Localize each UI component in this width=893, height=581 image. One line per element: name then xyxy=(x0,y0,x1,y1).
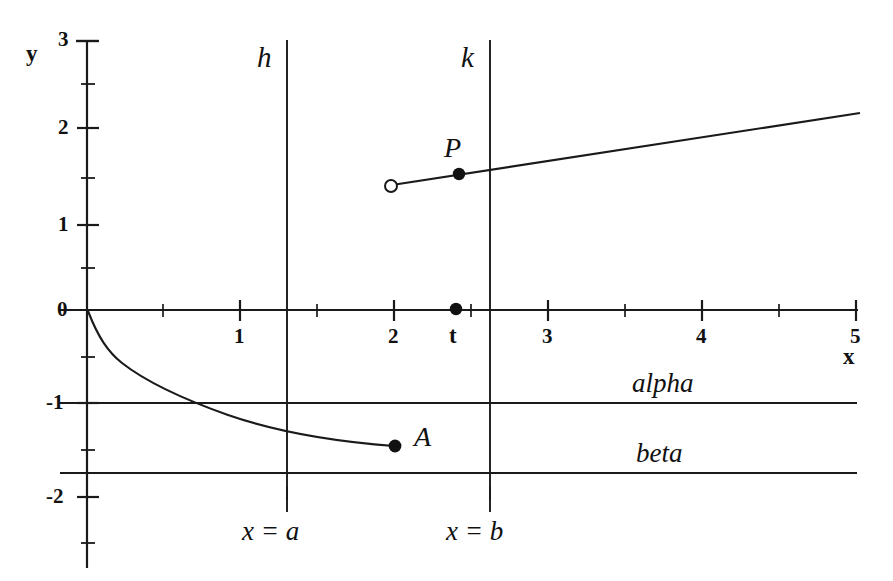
point-t-label: t xyxy=(449,324,457,347)
y-axis-label: y xyxy=(26,42,38,65)
x-tick-label-1: 1 xyxy=(234,326,245,347)
x-equals-a-label: x = a xyxy=(242,518,299,545)
y-tick-label-0: 0 xyxy=(57,299,68,320)
open-circle-endpoint-marker xyxy=(385,180,397,192)
point-A-label: A xyxy=(414,423,431,451)
x-tick-label-4: 4 xyxy=(696,326,707,347)
point-A-marker xyxy=(389,440,402,453)
y-tick-label-2: 2 xyxy=(58,117,69,138)
vertical-line-h-label: h xyxy=(257,43,272,72)
point-P-label: P xyxy=(444,134,461,162)
alpha-line-label: alpha xyxy=(632,370,694,397)
y-tick-label-neg2: -2 xyxy=(46,486,64,507)
x-equals-b-label: x = b xyxy=(446,518,503,545)
y-tick-label-neg1: -1 xyxy=(46,392,64,413)
math-diagram-figure: y x 3 2 1 0 -1 -2 1 2 3 4 5 h k x = a x … xyxy=(0,0,893,581)
plot-canvas xyxy=(0,0,893,581)
point-t-marker xyxy=(450,303,462,315)
vertical-line-k-label: k xyxy=(461,43,474,72)
x-tick-label-5: 5 xyxy=(850,326,861,347)
y-tick-label-1: 1 xyxy=(58,214,69,235)
beta-line-label: beta xyxy=(636,440,683,467)
x-tick-label-2: 2 xyxy=(388,326,399,347)
x-axis-label: x xyxy=(843,345,855,368)
y-tick-label-3: 3 xyxy=(58,29,69,50)
point-P-marker xyxy=(453,168,465,180)
x-tick-label-3: 3 xyxy=(542,326,553,347)
